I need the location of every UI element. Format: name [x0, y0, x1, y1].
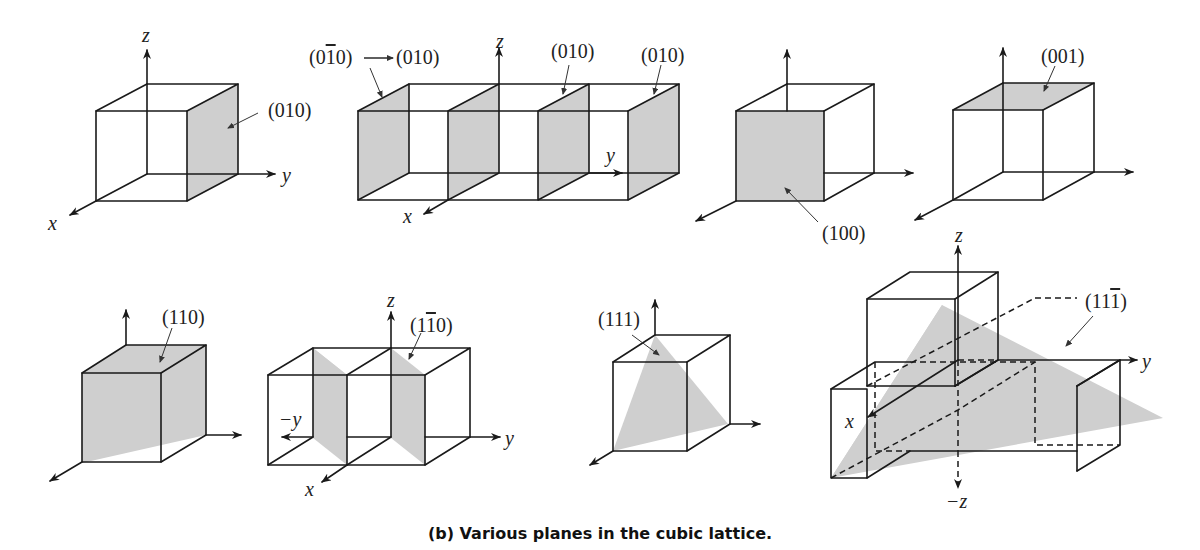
panel-100-front-face: [696, 50, 913, 222]
axis-label-z: z: [141, 24, 150, 46]
axis-label-z-8: z: [954, 224, 963, 246]
axis-label-neg-y: −y: [279, 408, 301, 431]
axis-label-x-8: x: [844, 410, 854, 432]
plane-label-11bar1: (111): [1085, 290, 1127, 313]
axis-label-x: x: [47, 212, 57, 234]
plane-label-010-b: (010): [551, 40, 594, 63]
plane-label-111: (111): [598, 308, 640, 331]
axis-label-x-2: x: [402, 205, 412, 227]
axis-label-y-6: y: [503, 427, 514, 450]
cubic-lattice-planes-figure: z y x (010) z y x (010) (010) (010) (010…: [0, 0, 1200, 550]
panel-010-translation: [358, 48, 679, 214]
axis-label-y: y: [280, 164, 291, 187]
panel-001-top-face: [915, 48, 1133, 220]
axis-label-z-6: z: [386, 289, 395, 311]
axis-label-y-2: y: [604, 144, 615, 167]
plane-label-010: (010): [268, 99, 311, 122]
axis-label-x-6: x: [304, 478, 314, 500]
plane-label-110: (110): [162, 306, 205, 329]
plane-label-0bar10: (010): [309, 46, 352, 69]
axis-label-neg-z: −z: [946, 490, 967, 512]
plane-label-001: (001): [1041, 45, 1084, 68]
panel-11bar1-extended: [831, 246, 1163, 488]
plane-label-010-c: (010): [641, 44, 684, 67]
panel-010-right-face: [70, 50, 275, 215]
plane-label-010-translated: (010): [396, 46, 439, 69]
axis-label-y-8: y: [1140, 350, 1151, 373]
figure-caption: (b) Various planes in the cubic lattice.: [0, 524, 1200, 543]
panel-110-diagonal: [50, 310, 241, 481]
axis-label-z-2: z: [495, 30, 504, 52]
plane-label-1bar10: (110): [410, 314, 453, 337]
plane-label-100: (100): [822, 222, 865, 245]
panel-1bar10: [268, 312, 500, 482]
